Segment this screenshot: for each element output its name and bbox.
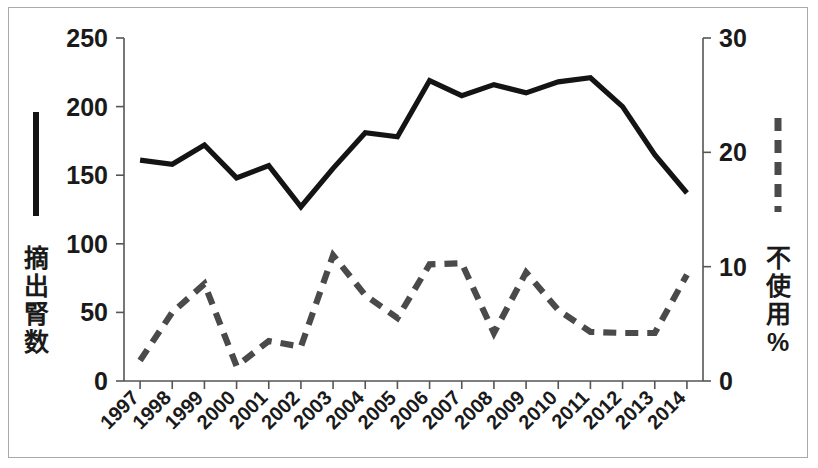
left-axis-title: 摘出腎数 — [24, 244, 50, 356]
right-axis-tick-label: 10 — [719, 253, 747, 281]
right-axis-tick-label: 30 — [719, 24, 747, 52]
x-axis-tick-label: 2014 — [643, 386, 691, 434]
right-axis-title: 不使用% — [765, 244, 792, 356]
series-line-extracted-kidneys — [140, 78, 687, 207]
left-axis-tick-label: 50 — [80, 298, 108, 326]
labels-layer: 0501001502002500102030199719981999200020… — [24, 24, 792, 433]
series-line-unused-percent — [140, 255, 687, 366]
axis-title-char: 腎 — [24, 300, 49, 328]
axes-layer — [116, 38, 711, 389]
axis-title-char: 用 — [766, 300, 791, 328]
axis-title-char: 使 — [765, 272, 792, 300]
series-layer — [140, 78, 687, 366]
axis-title-char: 出 — [24, 272, 49, 300]
left-axis-tick-label: 100 — [66, 230, 108, 258]
left-axis-tick-label: 0 — [94, 367, 108, 395]
left-axis-tick-label: 150 — [66, 161, 108, 189]
chart-canvas: 0501001502002500102030199719981999200020… — [0, 0, 818, 468]
axis-title-char: 不 — [766, 244, 791, 272]
axis-title-char: % — [767, 328, 789, 356]
left-axis-tick-label: 200 — [66, 93, 108, 121]
right-axis-tick-label: 20 — [719, 138, 747, 166]
legend-layer — [36, 112, 778, 216]
axis-title-char: 数 — [24, 328, 50, 356]
left-axis-tick-label: 250 — [66, 24, 108, 52]
chart-svg: 0501001502002500102030199719981999200020… — [0, 0, 818, 468]
axis-title-char: 摘 — [24, 244, 49, 272]
right-axis-tick-label: 0 — [719, 367, 733, 395]
